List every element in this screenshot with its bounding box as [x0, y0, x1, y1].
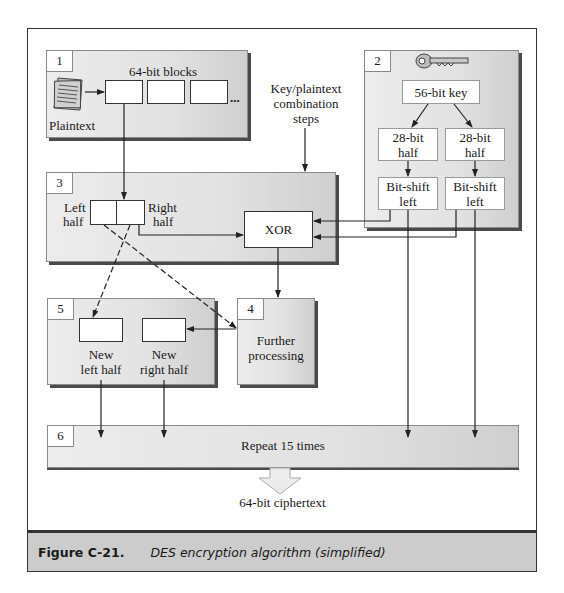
- xor-box: XOR: [244, 211, 313, 248]
- shift1-line1: Bit-shift: [386, 179, 429, 194]
- step1-number: 1: [47, 51, 73, 72]
- shift2-line2: left: [466, 194, 483, 209]
- half-left-line1: 28-bit: [392, 130, 423, 145]
- further-processing-line1: Further: [237, 333, 315, 348]
- step2-number: 2: [365, 51, 391, 72]
- half-28bit-left: 28-bit half: [378, 128, 438, 161]
- new-left-label-2: left half: [71, 362, 131, 377]
- step3-number: 3: [47, 173, 73, 194]
- block-2: [147, 80, 185, 104]
- right-half-label-2: half: [153, 214, 173, 229]
- half-right-line1: 28-bit: [459, 130, 490, 145]
- block-1: [105, 80, 143, 104]
- key-icon: [415, 52, 471, 70]
- step5-number: 5: [48, 299, 74, 320]
- repeat-label: Repeat 15 times: [47, 438, 519, 453]
- bitshift-left-box-2: Bit-shift left: [445, 177, 505, 210]
- step4-number: 4: [238, 299, 264, 320]
- shift1-line2: left: [399, 194, 416, 209]
- left-half-box: [90, 200, 118, 225]
- new-right-half-box: [142, 318, 186, 342]
- new-right-label-1: New: [132, 347, 196, 362]
- left-half-label-2: half: [63, 214, 83, 229]
- new-left-half-box: [79, 318, 123, 342]
- blocks-ellipsis: ...: [230, 90, 240, 105]
- xor-label: XOR: [265, 222, 292, 238]
- ciphertext-label: 64-bit ciphertext: [200, 495, 365, 510]
- key-56bit-box: 56-bit key: [402, 80, 480, 104]
- right-half-box: [116, 200, 145, 225]
- shift2-line1: Bit-shift: [453, 179, 496, 194]
- right-half-label-1: Right: [148, 200, 177, 215]
- caption-text: DES encryption algorithm (simplified): [150, 545, 385, 560]
- combination-label-line3: steps: [256, 111, 356, 126]
- plaintext-label: Plaintext: [49, 118, 95, 133]
- half-left-line2: half: [398, 145, 418, 160]
- half-right-line2: half: [465, 145, 485, 160]
- new-right-label-2: right half: [132, 362, 196, 377]
- blocks-title: 64-bit blocks: [103, 64, 223, 79]
- combination-label-line1: Key/plaintext: [256, 81, 356, 96]
- half-28bit-right: 28-bit half: [445, 128, 505, 161]
- bitshift-left-box-1: Bit-shift left: [378, 177, 438, 210]
- block-3: [190, 80, 228, 104]
- caption-label: Figure C-21.: [38, 545, 124, 560]
- figure-caption: Figure C-21. DES encryption algorithm (s…: [27, 531, 537, 572]
- new-left-label-1: New: [71, 347, 131, 362]
- document-icon: [52, 74, 88, 114]
- further-processing-line2: processing: [237, 348, 315, 363]
- left-half-label-1: Left: [64, 200, 86, 215]
- combination-label-line2: combination: [256, 96, 356, 111]
